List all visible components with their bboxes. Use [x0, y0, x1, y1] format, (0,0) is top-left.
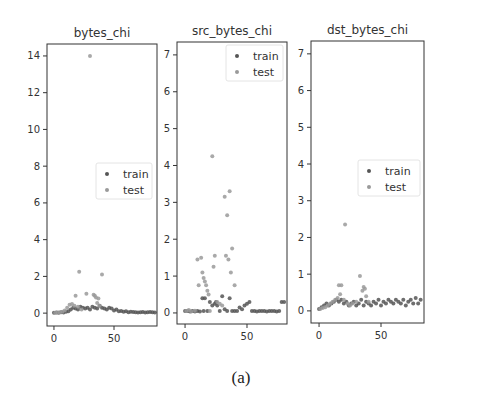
data-point: [153, 310, 157, 314]
legend-label-test: test: [385, 181, 407, 194]
data-point: [100, 273, 104, 277]
y-tick-label: 7: [298, 48, 304, 59]
data-point: [200, 270, 204, 274]
data-point: [338, 292, 342, 296]
data-point: [210, 154, 214, 158]
subplot-src-bytes-chi: src_bytes_chi01234567050traintest: [164, 24, 287, 342]
data-point: [411, 302, 415, 306]
data-point: [419, 298, 423, 302]
y-tick-label: 7: [164, 49, 170, 60]
subplot-title: bytes_chi: [74, 26, 131, 40]
data-point: [226, 257, 230, 261]
data-point: [401, 298, 405, 302]
subplot-title: dst_bytes_chi: [327, 23, 408, 37]
data-point: [404, 303, 408, 307]
data-point: [364, 294, 368, 298]
y-tick-label: 6: [34, 197, 40, 208]
y-tick-label: 14: [27, 50, 40, 61]
data-point: [204, 283, 208, 287]
data-point: [76, 305, 80, 309]
y-tick-label: 4: [164, 160, 170, 171]
data-point: [203, 296, 207, 300]
legend-label-test: test: [253, 66, 275, 79]
legend: traintest: [358, 160, 420, 196]
data-point: [358, 274, 362, 278]
y-tick-label: 0: [164, 307, 170, 318]
data-point: [202, 309, 206, 313]
data-point: [342, 298, 346, 302]
data-point: [213, 254, 217, 258]
x-tick-label: 50: [375, 330, 388, 341]
data-point: [354, 300, 358, 304]
y-tick-label: 4: [34, 234, 40, 245]
legend-marker-test: [235, 70, 239, 74]
y-tick-label: 4: [298, 159, 304, 170]
data-point: [336, 296, 340, 300]
y-tick-label: 1: [164, 271, 170, 282]
data-point: [282, 300, 286, 304]
data-point: [343, 223, 347, 227]
x-tick-label: 0: [316, 330, 322, 341]
legend-label-train: train: [385, 165, 411, 178]
data-point: [225, 213, 229, 217]
data-point: [195, 257, 199, 261]
data-point: [384, 302, 388, 306]
y-tick-label: 2: [298, 232, 304, 243]
data-point: [212, 265, 216, 269]
y-tick-label: 6: [298, 85, 304, 96]
data-point: [208, 309, 212, 313]
legend-label-train: train: [253, 50, 279, 63]
y-tick-label: 8: [34, 161, 40, 172]
data-point: [379, 303, 383, 307]
x-tick-label: 0: [182, 331, 188, 342]
x-tick-label: 0: [51, 333, 57, 344]
legend-label-train: train: [123, 168, 149, 181]
data-point: [225, 309, 229, 313]
data-point: [228, 296, 232, 300]
legend-marker-test: [105, 188, 109, 192]
data-point: [203, 280, 207, 284]
data-point: [351, 302, 355, 306]
figure-caption: (a): [0, 368, 482, 388]
data-point: [72, 304, 76, 308]
data-point: [88, 54, 92, 58]
y-tick-label: 6: [164, 86, 170, 97]
data-point: [189, 309, 193, 313]
data-point: [228, 189, 232, 193]
data-point: [80, 307, 84, 311]
x-tick-label: 50: [241, 331, 254, 342]
axes-frame: [177, 42, 287, 324]
data-point: [205, 289, 209, 293]
data-point: [277, 309, 281, 313]
data-point: [220, 294, 224, 298]
data-point: [220, 304, 224, 308]
x-tick-label: 50: [108, 333, 121, 344]
data-point: [202, 276, 206, 280]
series-train: [183, 294, 286, 313]
data-point: [391, 302, 395, 306]
data-point: [374, 302, 378, 306]
data-point: [367, 300, 371, 304]
series-test: [184, 154, 236, 313]
y-tick-label: 0: [298, 305, 304, 316]
data-point: [414, 296, 418, 300]
data-point: [247, 300, 251, 304]
data-point: [229, 270, 233, 274]
data-point: [369, 303, 373, 307]
data-point: [77, 270, 81, 274]
data-point: [235, 309, 239, 313]
y-tick-label: 3: [298, 195, 304, 206]
legend: traintest: [226, 45, 283, 81]
legend-marker-test: [367, 185, 371, 189]
y-tick-label: 2: [164, 234, 170, 245]
data-point: [359, 298, 363, 302]
y-tick-label: 1: [298, 269, 304, 280]
legend-label-test: test: [123, 184, 145, 197]
legend: traintest: [96, 163, 152, 199]
data-point: [98, 304, 102, 308]
data-point: [233, 283, 237, 287]
data-point: [230, 246, 234, 250]
data-point: [399, 302, 403, 306]
data-point: [197, 283, 201, 287]
data-point: [199, 256, 203, 260]
